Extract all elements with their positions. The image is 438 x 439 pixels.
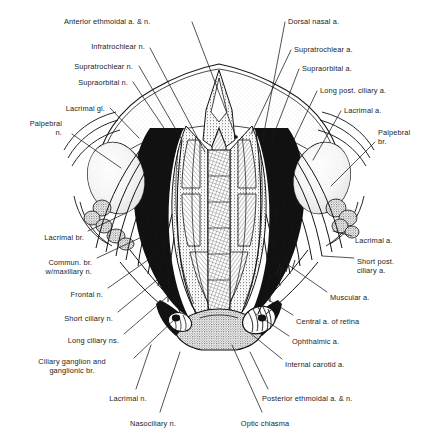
label-palpebral-br: Palpebral br.: [378, 128, 410, 146]
label-frontal-n: Frontal n.: [0, 290, 103, 299]
leader-frontal-n: [108, 253, 158, 288]
leader-posterior-ethmoidal: [250, 352, 268, 389]
label-infratrochlear: Infratrochlear n.: [0, 42, 145, 51]
leader-lacrimal-n: [136, 345, 151, 389]
label-long-post-ciliary: Long post. ciliary a.: [320, 86, 386, 95]
leader-short-post-ciliary: [322, 256, 354, 258]
label-supratrochlear-a: Supratrochlear a.: [294, 45, 353, 54]
chiasmatic-region: [208, 150, 230, 332]
label-palpebral-n: Palpebral n.: [0, 119, 62, 137]
label-supraorbital-n: Supraorbital n.: [0, 78, 128, 87]
label-short-ciliary-n: Short ciliary n.: [0, 314, 113, 323]
label-central-a-retina: Central a. of retina: [296, 317, 359, 326]
label-dorsal-nasal: Dorsal nasal a.: [288, 17, 339, 26]
label-ophthalmic-a: Ophthalmic a.: [292, 337, 339, 346]
lacrimal-gland-lobules-right: [326, 199, 359, 238]
label-long-ciliary-ns: Long ciliary ns.: [0, 336, 119, 345]
label-commun-br: Commun. br. w/maxillary n.: [0, 258, 92, 276]
label-posterior-ethmoidal: Posterior ethmoidal a. & n.: [262, 394, 352, 403]
label-supratrochlear-n: Supratrochlear n.: [0, 62, 133, 71]
label-lacrimal-n: Lacrimal n.: [73, 394, 183, 403]
leader-internal-carotid-a: [250, 333, 282, 359]
anatomy-plate: Anterior ethmoidal a. & n.Infratrochlear…: [0, 0, 438, 439]
label-supraorbital-a: Supraorbital a.: [302, 64, 352, 73]
label-optic-chiasma: Optic chiasma: [210, 419, 320, 428]
label-lacrimal-br: Lacrimal br.: [0, 233, 84, 242]
label-ciliary-ganglion: Ciliary ganglion and ganglionic br.: [17, 357, 127, 375]
label-internal-carotid-a: Internal carotid a.: [285, 360, 344, 369]
label-lacrimal-gl: Lacrimal gl.: [0, 104, 105, 113]
leader-muscular-a: [284, 262, 327, 292]
leader-ciliary-ganglion: [134, 318, 176, 358]
leader-optic-chiasma: [232, 345, 262, 412]
label-muscular-a: Muscular a.: [330, 293, 370, 302]
label-lacrimal-a-right: Lacrimal a.: [355, 236, 392, 245]
label-nasociliary-n: Nasociliary n.: [98, 419, 208, 428]
label-anterior-ethmoidal: Anterior ethmoidal a. & n.: [64, 17, 151, 26]
label-lacrimal-a-top: Lacrimal a.: [344, 106, 381, 115]
label-short-post-ciliary: Short post. ciliary a.: [357, 257, 394, 275]
